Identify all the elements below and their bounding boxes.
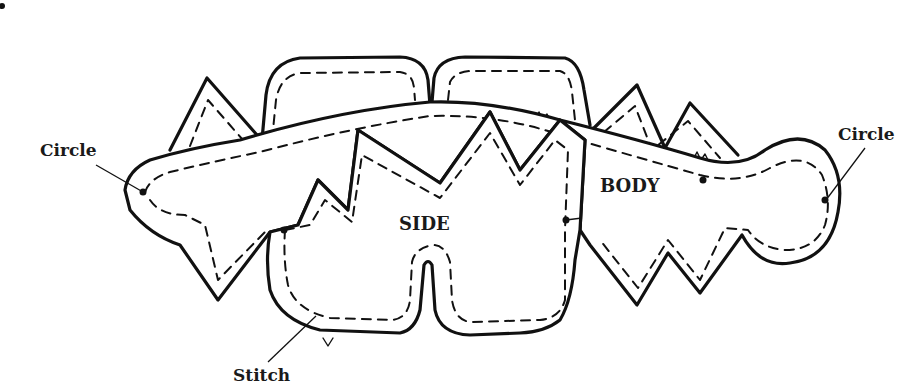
stray-mark — [0, 3, 5, 9]
label-circle-left: Circle — [40, 140, 97, 160]
match-point-body — [700, 177, 707, 184]
leader-stitch — [268, 316, 316, 362]
circle-marker-left — [140, 189, 147, 196]
label-circle-right: Circle — [838, 124, 895, 144]
circle-marker-right — [822, 197, 829, 204]
label-side: SIDE — [399, 213, 450, 234]
sewing-pattern-diagram: Circle Circle Stitch SIDE BODY — [0, 0, 922, 386]
match-point-left — [281, 227, 288, 234]
label-stitch: Stitch — [233, 365, 290, 385]
label-body: BODY — [600, 175, 661, 196]
